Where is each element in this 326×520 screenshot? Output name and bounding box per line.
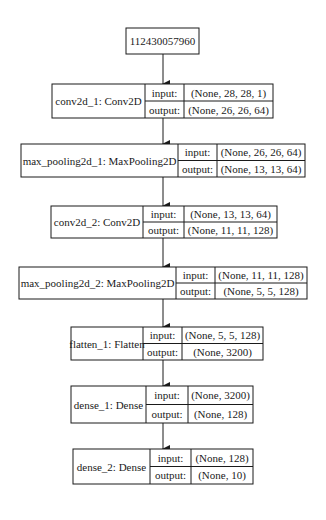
input-key-label: input: [183,269,209,281]
layer-node: dense_2: Denseinput:output:(None, 128)(N… [73,449,253,484]
input-node-label: 112430057960 [130,35,196,47]
input-key-label: input: [152,87,178,99]
output-key-label: output: [155,469,186,481]
input-node: 112430057960 [126,28,199,54]
output-shape: (None, 3200) [193,346,252,359]
input-key-label: input: [154,389,180,401]
output-key-label: output: [180,285,211,297]
input-shape: (None, 11, 11, 128) [218,269,304,282]
input-shape: (None, 26, 26, 64) [221,146,302,159]
input-key-label: input: [150,329,176,341]
output-shape: (None, 26, 26, 64) [188,104,269,117]
output-key-label: output: [182,163,213,175]
output-key-label: output: [149,104,180,116]
layer-name: flatten_1: Flatten [69,338,145,350]
output-shape: (None, 13, 13, 64) [221,163,302,176]
layer-name: max_pooling2d_2: MaxPooling2D [21,277,175,289]
layer-node: max_pooling2d_2: MaxPooling2Dinput:outpu… [19,267,307,299]
output-shape: (None, 10) [198,469,246,482]
output-shape: (None, 128) [194,408,247,421]
input-shape: (None, 28, 28, 1) [191,87,266,100]
output-key-label: output: [151,408,182,420]
layer-name: dense_2: Dense [77,461,146,473]
layer-node: flatten_1: Flatteninput:output:(None, 5,… [69,327,263,360]
output-shape: (None, 11, 11, 128) [188,224,274,237]
layer-node: max_pooling2d_1: MaxPooling2Dinput:outpu… [21,144,305,177]
input-key-label: input: [158,452,184,464]
layer-node: dense_1: Denseinput:output:(None, 3200)(… [71,386,253,423]
input-key-label: input: [185,146,211,158]
layer-node: conv2d_2: Conv2Dinput:output:(None, 13, … [51,206,277,238]
input-shape: (None, 5, 5, 128) [185,329,260,342]
output-shape: (None, 5, 5, 128) [223,285,298,298]
output-key-label: output: [147,346,178,358]
layer-name: conv2d_2: Conv2D [54,216,141,228]
input-shape: (None, 3200) [191,389,250,402]
output-key-label: output: [148,224,179,236]
layer-name: max_pooling2d_1: MaxPooling2D [23,155,177,167]
layer-name: dense_1: Dense [74,399,143,411]
layer-node: conv2d_1: Conv2Dinput:output:(None, 28, … [52,84,273,118]
input-shape: (None, 128) [195,452,248,465]
input-key-label: input: [151,208,177,220]
model-diagram: 112430057960 conv2d_1: Conv2Dinput:outpu… [0,0,326,520]
input-shape: (None, 13, 13, 64) [190,208,271,221]
layer-name: conv2d_1: Conv2D [55,95,142,107]
